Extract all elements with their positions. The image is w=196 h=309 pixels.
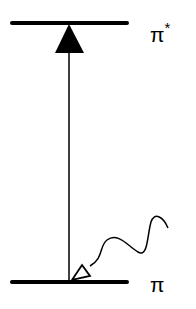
transition-arrowhead-icon	[55, 24, 84, 53]
lower-level-label: π	[150, 274, 165, 295]
diagram-graphics	[0, 0, 196, 309]
photon-wavy-line	[90, 216, 168, 266]
upper-level-label: π*	[150, 24, 170, 45]
photon-arrowhead-icon	[72, 265, 90, 280]
energy-diagram: π* π	[0, 0, 196, 309]
